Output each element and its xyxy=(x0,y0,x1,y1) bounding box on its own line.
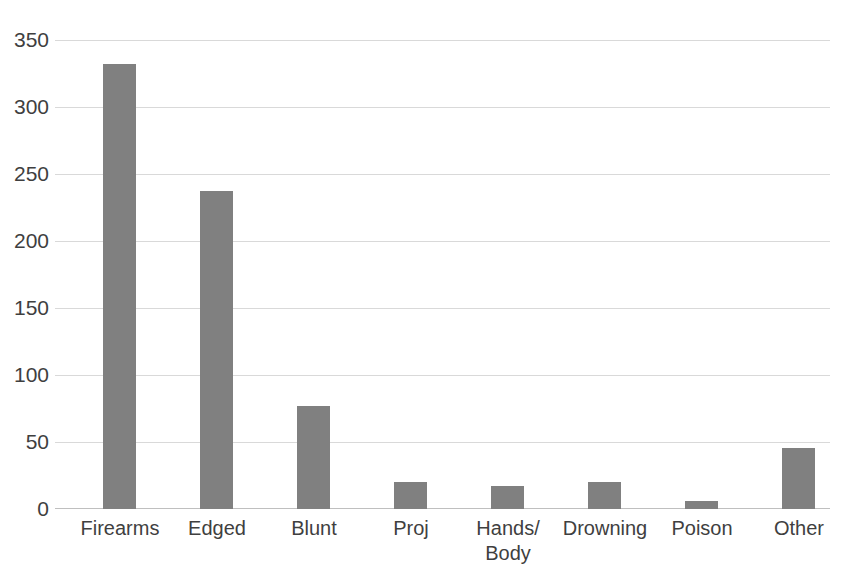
bar-hands-body xyxy=(491,486,524,509)
y-tick-label: 200 xyxy=(3,230,49,251)
y-tick-label: 100 xyxy=(3,364,49,385)
bar-other xyxy=(782,448,815,510)
bar-drowning xyxy=(588,482,621,509)
bar-proj xyxy=(394,482,427,509)
y-tick-label: 350 xyxy=(3,29,49,50)
x-axis-tick-labels: Firearms Edged Blunt Proj Hands/ Body Dr… xyxy=(55,516,830,580)
plot-area xyxy=(55,40,830,509)
bar-poison xyxy=(685,501,718,509)
bar-firearms xyxy=(103,64,136,509)
y-tick-label: 0 xyxy=(3,498,49,519)
y-tick-label: 250 xyxy=(3,163,49,184)
x-tick-label-other: Other xyxy=(724,516,856,541)
bar-blunt xyxy=(297,406,330,509)
y-axis-tick-labels: 350 300 250 200 150 100 50 0 xyxy=(0,40,49,509)
y-tick-label: 150 xyxy=(3,297,49,318)
bar-series xyxy=(55,40,830,509)
y-tick-label: 50 xyxy=(3,431,49,452)
bar-chart: 350 300 250 200 150 100 50 0 Firearms xyxy=(0,0,856,587)
y-tick-label: 300 xyxy=(3,96,49,117)
bar-edged xyxy=(200,191,233,509)
